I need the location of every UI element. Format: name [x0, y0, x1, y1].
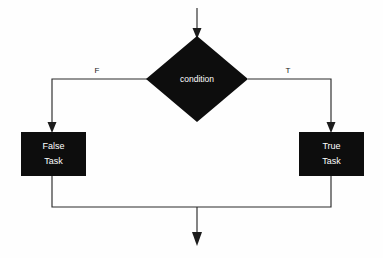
true-branch-label: T: [286, 66, 291, 75]
true-branch-path: [248, 79, 331, 126]
false-branch-path: [52, 79, 147, 126]
flowchart-canvas: condition False Task True Task F T: [0, 0, 383, 258]
true-branch-arrow-head: [327, 122, 336, 133]
true-branch-connector: [248, 79, 336, 133]
false-branch-arrow-head: [48, 122, 57, 133]
true-task-node[interactable]: True Task: [299, 132, 364, 176]
true-task-label-line2: Task: [322, 156, 341, 166]
decision-node[interactable]: condition: [146, 36, 248, 122]
decision-node-label: condition: [180, 74, 214, 84]
false-task-node[interactable]: False Task: [21, 132, 86, 176]
false-task-box-shape: [21, 132, 86, 176]
false-task-label-line1: False: [42, 141, 64, 151]
flowchart-svg: condition False Task True Task F T: [0, 0, 383, 258]
false-branch-connector: [48, 79, 148, 133]
true-task-box-shape: [299, 132, 364, 176]
merge-path: [52, 176, 331, 207]
exit-arrow-head: [192, 232, 202, 246]
entry-arrow: [193, 8, 202, 39]
merge-connector: [52, 176, 331, 207]
false-task-label-line2: Task: [44, 156, 63, 166]
true-task-label-line1: True: [322, 141, 340, 151]
false-branch-label: F: [95, 66, 100, 75]
exit-arrow: [192, 207, 202, 246]
